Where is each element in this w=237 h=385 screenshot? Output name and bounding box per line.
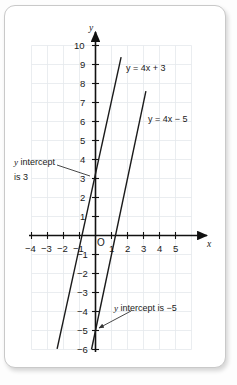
y-tick-9: 9 <box>80 60 85 70</box>
y-tick-minus-5: −5 <box>77 326 88 336</box>
annotation-intercept-minus-5-rest: intercept is −5 <box>118 303 177 313</box>
annotation-intercept-3-rest: intercept <box>18 157 55 167</box>
annotation-intercept-3-line1: y intercept <box>14 158 55 167</box>
x-tick-4: 4 <box>157 244 162 254</box>
y-tick-1: 1 <box>80 212 85 222</box>
y-tick-minus-6: −6 <box>77 345 88 355</box>
annotation-intercept-minus-5: y intercept is −5 <box>114 304 177 313</box>
x-tick-1: 1 <box>109 244 114 254</box>
origin-label: O <box>97 238 105 248</box>
x-tick-3: 3 <box>141 244 146 254</box>
y-tick-minus-2: −2 <box>77 269 88 279</box>
x-tick-2: 2 <box>125 244 130 254</box>
x-tick-5: 5 <box>173 244 178 254</box>
y-tick-2: 2 <box>80 193 85 203</box>
x-axis-label: x <box>207 240 211 250</box>
y-axis-label: y <box>89 24 93 34</box>
y-tick-7: 7 <box>80 98 85 108</box>
y-tick-minus-3: −3 <box>77 288 88 298</box>
arrow-intercept-minus-5 <box>99 311 131 328</box>
coordinate-plane-svg <box>0 0 237 385</box>
y-tick-4: 4 <box>80 155 85 165</box>
y-tick-6: 6 <box>80 117 85 127</box>
y-tick-8: 8 <box>80 79 85 89</box>
annotation-intercept-3-line2: is 3 <box>14 173 28 182</box>
y-tick-5: 5 <box>80 136 85 146</box>
x-tick-minus-3: −3 <box>41 244 52 254</box>
y-tick-10: 10 <box>74 41 85 51</box>
equation-label-2: y = 4x − 5 <box>148 115 188 124</box>
x-tick-minus-4: −4 <box>25 244 36 254</box>
x-tick-minus-1: −1 <box>73 244 84 254</box>
y-tick-3: 3 <box>80 174 85 184</box>
y-tick-minus-4: −4 <box>77 307 88 317</box>
graph-page: y x O 10 9 8 7 6 5 4 3 2 1 −1 −2 −3 −4 −… <box>0 0 237 385</box>
x-tick-minus-2: −2 <box>57 244 68 254</box>
equation-label-1: y = 4x + 3 <box>126 64 166 73</box>
